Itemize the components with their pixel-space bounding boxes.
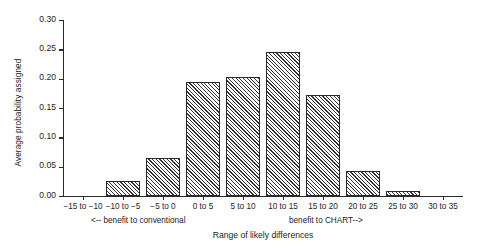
x-axis-tick-label: 15 to 20	[303, 202, 343, 211]
x-axis-tick-label: 0 to 5	[183, 202, 223, 211]
y-axis-tick-label: 0.15	[39, 102, 56, 112]
x-axis-tick	[163, 196, 164, 200]
x-axis-tick-label: −10 to −5	[103, 202, 143, 211]
y-axis-line	[63, 20, 64, 196]
y-axis-tick-label: 0.25	[39, 43, 56, 53]
y-axis-tick: 0.05	[59, 167, 63, 168]
bar	[346, 171, 380, 196]
y-axis-tick: 0.10	[59, 137, 63, 138]
y-axis-tick-label: 0.00	[39, 190, 56, 200]
x-axis-tick-label: 30 to 35	[423, 202, 463, 211]
y-axis-tick: 0.30	[59, 20, 63, 21]
x-axis-tick	[283, 196, 284, 200]
bar	[146, 158, 180, 196]
x-axis-tick	[363, 196, 364, 200]
bar	[106, 181, 140, 196]
y-axis-title: Average probability assigned	[14, 33, 23, 193]
plot-area: 0.000.050.100.150.200.250.30 −15 to −10−…	[63, 20, 463, 196]
y-axis-tick-label: 0.10	[39, 131, 56, 141]
x-axis-tick-label: 10 to 15	[263, 202, 303, 211]
y-axis-tick: 0.20	[59, 79, 63, 80]
y-axis-tick: 0.00	[59, 196, 63, 197]
x-axis-tick	[443, 196, 444, 200]
bar	[186, 82, 220, 196]
x-axis-tick	[323, 196, 324, 200]
bar	[226, 77, 260, 196]
figure-container: Average probability assigned 0.000.050.1…	[0, 0, 483, 250]
x-axis-title: Range of likely differences	[63, 230, 463, 240]
y-axis-tick: 0.25	[59, 49, 63, 50]
x-axis-tick-label: 25 to 30	[383, 202, 423, 211]
annotation-benefit-chart: benefit to CHART-->	[289, 216, 363, 225]
x-axis-tick-label: 5 to 10	[223, 202, 263, 211]
x-axis-tick-label: −15 to −10	[63, 202, 103, 211]
bar	[306, 95, 340, 196]
annotation-benefit-conventional: <-- benefit to conventional	[91, 216, 185, 225]
x-axis-tick-label: 20 to 25	[343, 202, 383, 211]
x-axis-tick	[123, 196, 124, 200]
bar	[266, 52, 300, 196]
x-axis-tick-label: −5 to 0	[143, 202, 183, 211]
x-axis-tick	[403, 196, 404, 200]
y-axis-tick-label: 0.30	[39, 14, 56, 24]
x-axis-tick	[203, 196, 204, 200]
y-axis-tick: 0.15	[59, 108, 63, 109]
y-axis-tick-label: 0.20	[39, 72, 56, 82]
x-axis-tick	[83, 196, 84, 200]
x-axis-tick	[243, 196, 244, 200]
y-axis-tick-label: 0.05	[39, 160, 56, 170]
